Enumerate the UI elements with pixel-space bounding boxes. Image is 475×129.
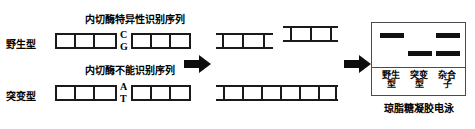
dna-rung <box>131 85 133 101</box>
dna-strand-top <box>131 85 191 87</box>
dna-rung <box>93 33 95 49</box>
dna-strand-bottom <box>55 99 117 101</box>
dna-wild-cut-fragment-2 <box>283 26 338 42</box>
gel-lane-label-line2: 型 <box>376 80 406 89</box>
dna-rung <box>55 85 57 101</box>
dna-rung <box>299 85 301 101</box>
dna-strand-top <box>55 33 117 35</box>
dna-rung <box>74 85 76 101</box>
dna-wild-cut-fragment-1 <box>216 33 273 49</box>
dna-rung <box>242 33 244 49</box>
dna-rung <box>242 85 244 101</box>
dna-mutant-left-segment <box>55 85 117 101</box>
base-wild-bottom: G <box>120 42 128 52</box>
dna-rung <box>189 33 191 49</box>
dna-rung <box>55 33 57 49</box>
dna-rung <box>74 33 76 49</box>
dna-rung <box>169 33 171 49</box>
gel-band-wild-upper <box>380 33 404 38</box>
dna-rung <box>189 85 191 101</box>
gel-label-divider <box>372 67 465 68</box>
dna-strand-bottom <box>55 47 117 49</box>
dna-rung <box>150 85 152 101</box>
dna-rung <box>115 33 117 49</box>
dna-rung <box>263 33 265 49</box>
base-mutant-top: A <box>120 82 127 92</box>
electrophoresis-arrow-icon <box>344 54 372 74</box>
dna-rung <box>318 85 320 101</box>
dna-rung <box>335 85 337 101</box>
mutant-type-site-caption: 内切酶不能识别序列 <box>85 62 175 77</box>
dna-wild-left-segment <box>55 33 117 49</box>
gel-caption: 琼脂糖凝胶电泳 <box>371 100 466 115</box>
dna-mutant-uncut-fragment <box>216 85 338 101</box>
dna-rung <box>93 85 95 101</box>
gel-lane-label-heterozygote: 杂合 子 <box>432 71 462 90</box>
dna-rung <box>222 33 224 49</box>
rflp-diagram: 内切酶特异性识别序列 野生型 C G 内切酶不能识别序列 突变型 A T <box>0 0 475 129</box>
gel-band-heterozygote-lower <box>436 51 460 56</box>
dna-rung <box>290 26 292 42</box>
dna-rung <box>115 85 117 101</box>
dna-rung <box>280 85 282 101</box>
gel-lane-label-mutant-type: 突变 型 <box>404 71 434 90</box>
gel-band-mutant-lower <box>408 51 432 56</box>
dna-mutant-right-segment <box>131 85 191 101</box>
dna-rung <box>330 26 332 42</box>
row-label-wild-type: 野生型 <box>6 36 36 51</box>
dna-rung <box>310 26 312 42</box>
dna-wild-right-segment <box>131 33 191 49</box>
gel-lane-label-wild-type: 野生 型 <box>376 71 406 90</box>
dna-strand-bottom <box>131 47 191 49</box>
dna-strand-bottom <box>131 99 191 101</box>
row-label-mutant-type: 突变型 <box>6 88 36 103</box>
gel-lane-label-line2: 型 <box>404 80 434 89</box>
dna-rung <box>169 85 171 101</box>
wild-type-site-caption: 内切酶特异性识别序列 <box>85 11 185 26</box>
gel-electrophoresis-box: 野生 型 突变 型 杂合 子 <box>371 22 466 96</box>
gel-band-heterozygote-upper <box>436 33 460 38</box>
dna-rung <box>131 33 133 49</box>
gel-lane-label-line2: 子 <box>432 80 462 89</box>
dna-rung <box>261 85 263 101</box>
base-mutant-bottom: T <box>120 94 127 104</box>
digest-arrow-icon <box>184 54 212 74</box>
dna-strand-top <box>55 85 117 87</box>
dna-strand-top <box>131 33 191 35</box>
dna-rung <box>223 85 225 101</box>
dna-rung <box>150 33 152 49</box>
base-wild-top: C <box>120 30 127 40</box>
